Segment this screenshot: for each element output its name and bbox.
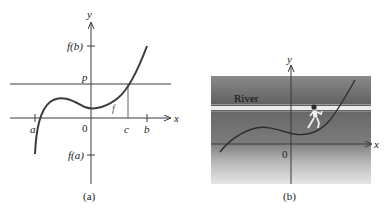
label-b: b xyxy=(144,123,150,135)
label-a: a xyxy=(30,123,36,135)
label-fa: f(a) xyxy=(68,149,84,162)
y-axis-label-b: y xyxy=(286,53,292,65)
panel-b: River y x 0 (b) xyxy=(211,53,379,203)
caption-b: (b) xyxy=(283,190,296,203)
label-origin-b: 0 xyxy=(282,148,288,160)
label-fb: f(b) xyxy=(67,40,83,53)
x-axis-label: x xyxy=(173,112,179,124)
panel-a: y x f(b) f(a) p 0 a b c f (a) xyxy=(10,8,179,203)
label-c: c xyxy=(124,123,129,135)
x-axis-label-b: x xyxy=(373,138,379,150)
label-origin: 0 xyxy=(82,122,88,134)
y-axis-label: y xyxy=(86,8,92,20)
label-curve-f: f xyxy=(112,103,116,114)
figure-canvas: y x f(b) f(a) p 0 a b c f (a) xyxy=(0,0,386,214)
river-label: River xyxy=(234,92,259,104)
label-p: p xyxy=(81,71,88,83)
caption-a: (a) xyxy=(83,190,96,203)
